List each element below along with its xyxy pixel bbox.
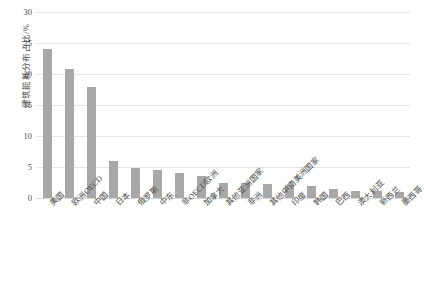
bar	[175, 173, 184, 198]
bar-slot	[36, 12, 58, 198]
bar	[109, 161, 118, 198]
y-tick-label: 25	[24, 38, 33, 48]
y-axis-title: 建筑能耗分布占比/%	[19, 0, 31, 136]
bar-slot	[124, 12, 146, 198]
plot-area: 051015202530	[36, 12, 410, 198]
bar-slot	[146, 12, 168, 198]
y-tick-label: 15	[24, 100, 33, 110]
bar-slot	[366, 12, 388, 198]
bar-slot	[80, 12, 102, 198]
y-tick-label: 10	[24, 131, 33, 141]
bar-slot	[168, 12, 190, 198]
x-axis-labels: 美国欧洲OECD中国日本俄罗斯中东非OECD欧洲加拿大其他亚洲国家非洲其他中南美…	[36, 200, 410, 284]
bar	[131, 168, 140, 198]
bar-slot	[322, 12, 344, 198]
y-tick-label: 5	[28, 162, 32, 172]
bar	[65, 69, 74, 198]
bar-slot	[58, 12, 80, 198]
y-tick-label: 0	[28, 193, 32, 203]
bar	[43, 49, 52, 198]
bar-series	[36, 12, 410, 198]
bar-slot	[102, 12, 124, 198]
y-tick-label: 30	[24, 7, 33, 17]
bar-slot	[344, 12, 366, 198]
y-tick-label: 20	[24, 69, 33, 79]
bar-slot	[388, 12, 410, 198]
